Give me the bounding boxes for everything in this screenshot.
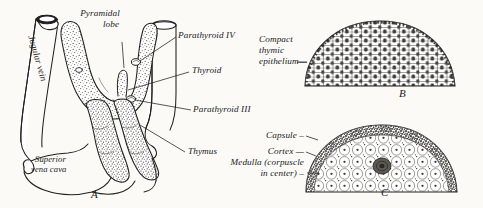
figure-letter-a: A (91, 188, 98, 200)
label-cortex: Cortex — (216, 146, 304, 156)
label-thymus: Thymus (188, 146, 217, 156)
label-medulla-line1: Medulla (corpuscle (176, 157, 304, 167)
label-pyramidal-lobe-line1: Pyramidal (64, 8, 136, 18)
label-compact-thymic-epithelium-line1: Compact (259, 34, 293, 44)
label-parathyroid-iii: Parathyroid III (193, 104, 251, 114)
figure-letter-b: B (399, 87, 406, 99)
label-parathyroid-iv: Parathyroid IV (178, 30, 235, 40)
label-medulla-line2: in center) – (176, 168, 304, 178)
parathyroid-left-upper (76, 68, 83, 73)
label-thyroid: Thyroid (192, 65, 221, 75)
figure-letter-c: C (381, 186, 388, 198)
label-compact-thymic-epithelium-line3: epithelium— (259, 56, 307, 66)
label-compact-thymic-epithelium-line2: thymic (259, 45, 284, 55)
parathyroid-iv-body (131, 59, 140, 66)
label-superior-vena-cava-line2: vena cava (31, 165, 67, 175)
label-capsule: Capsule – (216, 130, 304, 140)
hassall-corpuscle (373, 158, 391, 174)
label-pyramidal-lobe-line2: lobe (80, 19, 142, 29)
